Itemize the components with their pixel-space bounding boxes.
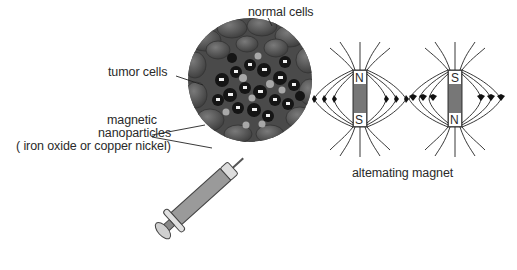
- magnet-2: [409, 42, 505, 157]
- normal-cells-label: normal cells: [248, 5, 314, 19]
- magnet-2-top-pole: S: [451, 71, 459, 85]
- magnet-1-top-pole: N: [355, 71, 364, 85]
- magnet-1: [312, 42, 409, 157]
- diagram-canvas: [0, 0, 517, 270]
- tumor-cells-label: tumor cells: [108, 65, 167, 79]
- nanoparticles-label-line2: nanoparticles: [98, 126, 171, 140]
- magnet-caption: altemating magnet: [352, 166, 453, 180]
- nanoparticles-label-line1: magnetic: [107, 113, 157, 127]
- tissue-circle: [184, 16, 321, 143]
- nanoparticles-label-line3: ( iron oxide or copper nickel): [16, 139, 171, 153]
- magnet-1-bottom-pole: S: [355, 113, 363, 127]
- syringe: [150, 148, 253, 244]
- magnet-2-bottom-pole: N: [450, 113, 459, 127]
